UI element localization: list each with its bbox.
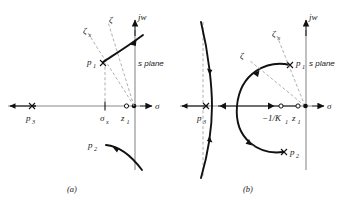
panel-b-pole-p3-label: p <box>196 113 202 123</box>
panel-a-pole-p2-label: p <box>87 140 93 150</box>
panel-a-pole-p1-label: p <box>86 57 92 67</box>
panel-a-jw-axis-label: jw <box>137 12 147 22</box>
panel-b-zeta-x-sub: x <box>277 34 281 41</box>
panel-b-gain-point-marker <box>279 104 283 108</box>
panel-b-s-plane-label: s plane <box>309 59 335 68</box>
panel-b-damping-ray-zeta-x <box>277 36 305 106</box>
panel-b-sigma-axis-label: σ <box>327 101 332 111</box>
figure-svg: σ jw s plane p 3 σ x z 1 <box>0 0 346 206</box>
panel-a-zero-z1-label: z <box>120 113 125 123</box>
panel-a-zeta-x-label: ζ <box>83 26 88 36</box>
panel-a-zero-z1-sub: 1 <box>127 118 130 125</box>
panel-a-pole-p3-label: p <box>25 113 31 123</box>
panel-b-zeta-x-label: ζ <box>272 29 277 39</box>
panel-b-gain-point-label: −1/K <box>262 113 282 123</box>
panel-a-damping-ray-zeta <box>108 22 134 106</box>
panel-b-zero-z1-label: z <box>291 113 296 123</box>
panel-b-pole-p1-label: p <box>295 58 301 68</box>
panel-b-gain-point-sub: 1 <box>285 118 288 125</box>
panel-a-sigma-x-sub: x <box>105 118 109 125</box>
panel-a-zeta-label: ζ <box>109 15 114 25</box>
panel-a-sigma-x-label: σ <box>100 113 105 123</box>
panel-b-caption: (b) <box>243 184 253 194</box>
panel-a-pole-p1-sub: 1 <box>93 62 96 69</box>
panel-b-origin-point <box>303 104 308 109</box>
panel-b-jw-axis-label: jw <box>308 12 318 22</box>
panel-b-pole-p2-sub: 2 <box>296 152 299 159</box>
panel-a-locus-lower-branch <box>106 145 142 170</box>
panel-a-damping-ray-zeta-x <box>88 33 134 106</box>
panel-a-zero-z1-marker <box>124 104 128 108</box>
panel-a-sigma-axis-label: σ <box>155 101 160 111</box>
panel-a-locus-upper-branch <box>103 35 143 62</box>
panel-a-pole-p2-sub: 2 <box>94 145 97 152</box>
panel-b: σ jw s plane p 3 <box>180 12 335 194</box>
panel-b-pole-p2-label: p <box>289 147 295 157</box>
panel-b-pole-p3-sub: 3 <box>202 118 206 125</box>
panel-a: σ jw s plane p 3 σ x z 1 <box>8 12 164 194</box>
panel-b-zeta-label: ζ <box>240 51 245 61</box>
panel-b-real-axis-locus-mid <box>218 103 300 110</box>
panel-b-zero-z1-sub: 1 <box>298 118 301 125</box>
panel-a-zeta-x-sub: x <box>88 31 92 38</box>
panel-b-zero-z1-marker <box>296 104 300 108</box>
panel-b-pole-p1-sub: 1 <box>302 63 305 70</box>
panel-a-s-plane-label: s plane <box>138 59 164 68</box>
panel-a-pole-p3-sub: 3 <box>31 118 35 125</box>
figure-root-locus-diagrams: σ jw s plane p 3 σ x z 1 <box>0 0 346 206</box>
panel-a-caption: (a) <box>67 184 77 194</box>
